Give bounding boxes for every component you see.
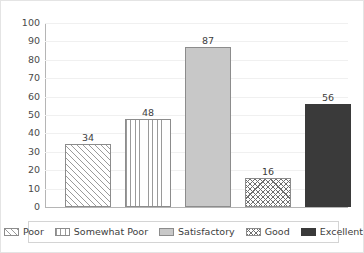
y-tick-10: 10 [6,184,40,194]
bar-group-good: 16 [245,23,291,207]
y-tick-70: 70 [6,73,40,83]
legend-item-poor[interactable]: Poor [4,227,44,237]
legend-swatch-poor-icon [4,228,19,236]
bar-label-excellent: 56 [322,92,334,105]
y-tick-50: 50 [6,110,40,120]
y-tick-100: 100 [6,18,40,28]
legend-label-satisfactory: Satisfactory [178,227,235,237]
legend-swatch-excellent-icon [301,228,316,236]
bar-good[interactable]: 16 [245,178,291,207]
legend-label-excellent: Excellent [320,227,363,237]
bar-label-good: 16 [262,166,274,179]
bar-somewhat-poor[interactable]: 48 [125,119,171,207]
bar-excellent[interactable]: 56 [305,104,351,207]
plot-area: 34 48 87 16 56 [45,23,348,207]
y-axis-tick-labels: 100 90 80 70 60 50 40 30 20 10 0 [1,23,40,207]
legend: Poor Somewhat Poor Satisfactory Good Exc… [28,221,339,243]
x-axis-baseline [45,207,348,208]
bar-group-somewhat-poor: 48 [125,23,171,207]
legend-swatch-good-icon [246,228,261,236]
bar-satisfactory[interactable]: 87 [185,47,231,207]
legend-item-good[interactable]: Good [246,227,290,237]
y-tick-60: 60 [6,92,40,102]
bar-label-somewhat-poor: 48 [142,107,154,120]
legend-label-good: Good [265,227,290,237]
y-tick-0: 0 [6,202,40,212]
bar-group-satisfactory: 87 [185,23,231,207]
y-tick-20: 20 [6,165,40,175]
bar-group-excellent: 56 [305,23,351,207]
legend-item-somewhat-poor[interactable]: Somewhat Poor [55,227,148,237]
bar-label-satisfactory: 87 [202,35,214,48]
bar-label-poor: 34 [82,133,94,146]
bar-chart: 100 90 80 70 60 50 40 30 20 10 0 34 [0,0,364,253]
legend-label-somewhat-poor: Somewhat Poor [74,227,148,237]
y-tick-90: 90 [6,37,40,47]
bar-group-poor: 34 [65,23,111,207]
bar-poor[interactable]: 34 [65,144,111,207]
y-tick-80: 80 [6,55,40,65]
legend-item-excellent[interactable]: Excellent [301,227,363,237]
legend-swatch-satisfactory-icon [159,228,174,236]
y-tick-30: 30 [6,147,40,157]
legend-label-poor: Poor [23,227,44,237]
legend-item-satisfactory[interactable]: Satisfactory [159,227,235,237]
legend-swatch-somewhat-poor-icon [55,228,70,236]
y-tick-40: 40 [6,129,40,139]
